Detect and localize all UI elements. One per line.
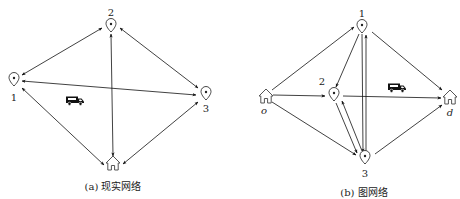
edge-2-3 [120,28,198,88]
caption-a: (a) 现实网络 [85,178,142,193]
edge-1-d [372,32,442,90]
node-label-b-origin: o [261,106,267,116]
node-label-b2: 2 [319,77,325,87]
edge-2-d [343,96,441,98]
edge-1-2 [336,34,359,87]
node-label-a3: 3 [203,104,209,114]
node-label-a2: 2 [108,8,114,18]
edge-3-2 [342,101,362,151]
edge-1-3 [362,34,363,152]
panel-a-edges [22,28,198,165]
location-pin-icon-b2 [329,88,339,102]
home-icon-b-origin [259,89,273,103]
node-label-b-destination: d [447,108,453,118]
edge-o-1 [272,27,354,90]
node-label-b3: 3 [362,169,368,179]
truck-icon-b [388,84,406,93]
home-icon-a-depot [106,156,120,170]
location-pin-icon-a3 [201,87,211,101]
location-pin-icon-a2 [106,19,116,33]
caption-b: (b) 图网络 [340,184,387,199]
edge-1-3 [22,81,196,95]
network-diagrams [0,0,460,199]
truck-icon-a [66,97,84,106]
edge-1-2 [22,28,102,75]
edge-o-2 [273,95,325,96]
edge-3-d [375,105,442,154]
node-label-a1: 1 [11,93,17,103]
home-icon-b-destination [443,90,457,104]
node-label-b1: 1 [359,9,365,19]
edge-1-depot [22,88,104,165]
location-pin-icon-b1 [357,20,367,34]
location-pin-icon-a1 [9,73,19,87]
panel-b-edges [272,27,442,155]
edge-2-depot [111,34,113,156]
edge-o-3 [272,102,356,155]
edge-3-depot [123,102,198,164]
location-pin-icon-b3 [360,151,370,165]
edge-2-3 [336,103,357,153]
